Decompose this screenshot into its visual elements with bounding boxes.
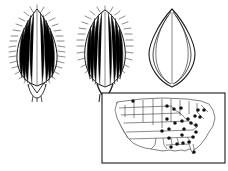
spikelet-nerves: [20, 11, 55, 85]
botanical-plate: [0, 0, 228, 171]
occurrence-dot: [167, 127, 170, 130]
occurrence-dot: [175, 142, 178, 145]
occurrence-dot: [186, 117, 189, 120]
occurrence-dot: [194, 130, 197, 133]
occurrence-dot: [172, 107, 175, 110]
occurrence-dot: [160, 129, 163, 132]
figure-lemma-smooth: [140, 6, 204, 90]
occurrence-dot: [167, 136, 170, 139]
occurrence-dot: [196, 108, 199, 111]
figure-spikelet-abaxial: [4, 6, 74, 102]
figure-distribution-map: [101, 92, 226, 164]
occurrence-dot: [202, 108, 205, 111]
occurrence-dot: [165, 117, 168, 120]
occurrence-dot: [193, 114, 196, 117]
occurrence-dot: [187, 140, 190, 143]
occurrence-dot: [189, 121, 192, 124]
occurrence-dot: [181, 141, 184, 144]
occurrence-dot: [131, 99, 134, 102]
occurrence-dot: [191, 135, 194, 138]
occurrence-dot: [182, 127, 185, 130]
occurrence-dot: [198, 115, 201, 118]
occurrence-dot: [165, 104, 168, 107]
occurrence-dot: [169, 145, 172, 148]
occurrence-dot: [173, 121, 176, 124]
figure-spikelet-adaxial: [72, 6, 142, 102]
occurrence-dot: [180, 119, 183, 122]
occurrence-dot: [194, 123, 197, 126]
occurrence-dot: [180, 133, 183, 136]
occurrence-dot: [179, 106, 182, 109]
occurrence-dot: [192, 150, 195, 153]
